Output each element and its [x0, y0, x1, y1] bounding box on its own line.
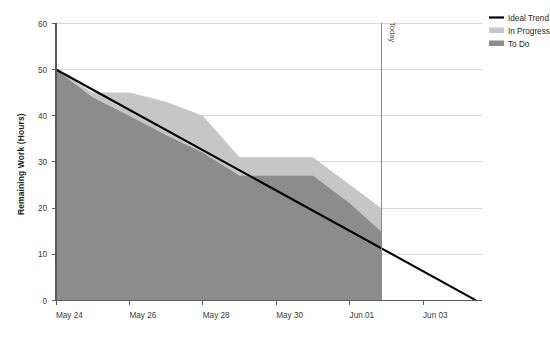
x-tick-label-may-26: May 26: [129, 311, 156, 320]
x-tick-label-jun-03: Jun 03: [423, 311, 448, 320]
y-axis-title: Remaining Work (Hours): [16, 113, 26, 215]
legend-label-ideal-trend: Ideal Trend: [508, 14, 549, 23]
x-tick-label-may-30: May 30: [276, 311, 303, 320]
x-tick-label-jun-01: Jun 01: [350, 311, 375, 320]
x-tick-label-may-24: May 24: [56, 311, 83, 320]
y-tick-label-20: 20: [38, 204, 48, 213]
y-tick-label-40: 40: [38, 112, 48, 121]
y-tick-label-50: 50: [38, 66, 48, 75]
y-tick-label-0: 0: [42, 297, 47, 306]
y-tick-label-30: 30: [38, 158, 48, 167]
x-tick-label-may-28: May 28: [203, 311, 230, 320]
y-tick-label-10: 10: [38, 250, 48, 259]
legend-label-in-progress: In Progress: [508, 27, 550, 36]
burndown-chart: Today 60 50 40 30 20 10 0: [0, 0, 550, 339]
legend-label-to-do: To Do: [508, 40, 530, 49]
y-tick-label-60: 60: [38, 20, 48, 29]
today-marker-label: Today: [388, 22, 397, 42]
chart-canvas: Today 60 50 40 30 20 10 0: [0, 0, 550, 339]
legend-marker-in-progress: [489, 28, 504, 34]
legend-marker-to-do: [489, 41, 504, 47]
